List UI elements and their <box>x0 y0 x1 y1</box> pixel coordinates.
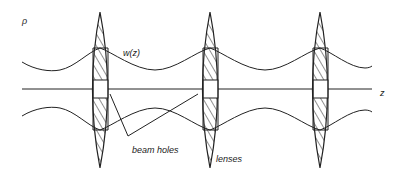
z-label: z <box>379 88 385 98</box>
w-z-label: w(z) <box>123 48 140 58</box>
lenses-label: lenses <box>216 154 243 164</box>
beam-hole-1 <box>93 80 108 98</box>
beam-lens-diagram: ρ w(z) z beam holes lenses <box>0 0 406 171</box>
beam-holes-label: beam holes <box>132 145 179 155</box>
lens-2 <box>203 12 219 168</box>
lens-1 <box>93 12 109 168</box>
beam-holes-leader <box>110 94 198 136</box>
beam-hole-2 <box>203 80 218 98</box>
lens-3 <box>313 12 329 168</box>
beam-hole-3 <box>313 80 328 98</box>
rho-label: ρ <box>21 16 27 26</box>
